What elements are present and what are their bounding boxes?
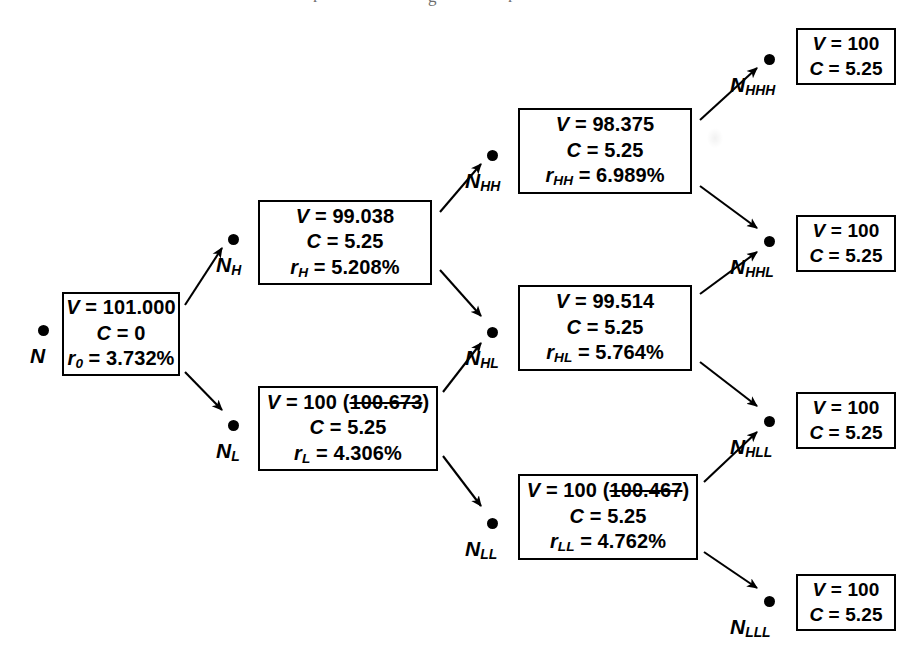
node-NHHL-line-1-v: V = 100 [813, 219, 880, 244]
node-label-N: N [30, 345, 45, 366]
tree-edge-NHL-to-NHLL [700, 362, 757, 406]
node-N-line-2-c: C = 0 [97, 321, 146, 347]
node-NHHH-line-2-c: C = 5.25 [809, 57, 882, 82]
node-NHHL-line-2-c: C = 5.25 [809, 244, 882, 269]
tree-edge-N-to-NL [185, 372, 222, 410]
node-dot-N [38, 325, 49, 336]
node-value-box-NH[interactable]: V = 99.038C = 5.25rH = 5.208% [258, 200, 432, 285]
node-NL-line-2-c: C = 5.25 [310, 415, 387, 441]
node-label-NHH: NHH [465, 170, 500, 194]
node-value-box-NLLL[interactable]: V = 100C = 5.25 [796, 574, 896, 631]
node-NH-line-1-v: V = 99.038 [296, 204, 394, 230]
node-label-NLLL: NLLL [730, 616, 771, 640]
node-NL-line-3-r: rL = 4.306% [294, 441, 402, 467]
node-N-line-1-v: V = 101.000 [66, 295, 176, 321]
node-label-NHHL: NHHL [730, 256, 774, 280]
node-NHHH-line-1-v: V = 100 [813, 32, 880, 57]
node-dot-NHH [487, 150, 498, 161]
node-NL-line-1-v: V = 100 (100.673) [267, 390, 429, 416]
tree-edge-NH-to-NHL [440, 270, 481, 316]
node-NHL-line-1-v: V = 99.514 [556, 289, 654, 315]
node-dot-NLL [487, 518, 498, 529]
node-dot-NL [228, 420, 239, 431]
node-value-box-NHHL[interactable]: V = 100C = 5.25 [796, 215, 896, 272]
tree-edge-NL-to-NLL [443, 456, 481, 506]
node-value-box-NHL[interactable]: V = 99.514C = 5.25rHL = 5.764% [518, 285, 692, 371]
node-label-NH: NH [216, 254, 241, 278]
node-dot-NH [228, 234, 239, 245]
node-NHH-line-2-c: C = 5.25 [567, 138, 644, 164]
node-label-NL: NL [216, 440, 240, 464]
node-NLL-line-1-v: V = 100 (100.467) [527, 478, 689, 504]
node-value-box-NL[interactable]: V = 100 (100.673)C = 5.25rL = 4.306% [258, 386, 438, 471]
node-dot-NHHL [764, 236, 775, 247]
node-NHLL-line-2-c: C = 5.25 [809, 421, 882, 446]
node-dot-NLLL [764, 596, 775, 607]
node-NLLL-line-2-c: C = 5.25 [809, 603, 882, 628]
node-value-box-N[interactable]: V = 101.000C = 0r0 = 3.732% [62, 292, 180, 376]
node-NHH-line-1-v: V = 98.375 [556, 112, 654, 138]
node-NLL-line-3-r: rLL = 4.762% [550, 529, 666, 555]
node-NHL-line-3-r: rHL = 5.764% [546, 340, 664, 366]
node-NH-line-2-c: C = 5.25 [307, 229, 384, 255]
node-value-box-NLL[interactable]: V = 100 (100.467)C = 5.25rLL = 4.762% [518, 474, 698, 560]
node-label-NLL: NLL [465, 538, 497, 562]
node-dot-NHL [487, 327, 498, 338]
node-NLL-line-2-c: C = 5.25 [570, 504, 647, 530]
node-value-box-NHH[interactable]: V = 98.375C = 5.25rHH = 6.989% [518, 108, 692, 194]
node-NHLL-line-1-v: V = 100 [813, 396, 880, 421]
tree-edge-NHH-to-NHHL [700, 186, 757, 228]
figure-canvas: r g r NV = 101.000C = 0r0 = 3.732%NHV = … [0, 0, 916, 672]
node-NHH-line-3-r: rHH = 6.989% [545, 163, 664, 189]
node-label-NHHH: NHHH [730, 74, 775, 98]
node-NLLL-line-1-v: V = 100 [813, 578, 880, 603]
node-label-NHLL: NHLL [730, 436, 772, 460]
node-N-line-3-r: r0 = 3.732% [67, 346, 174, 372]
node-NH-line-3-r: rH = 5.208% [290, 255, 399, 281]
node-value-box-NHLL[interactable]: V = 100C = 5.25 [796, 392, 896, 449]
node-NHL-line-2-c: C = 5.25 [567, 315, 644, 341]
tree-edge-NLL-to-NLLL [704, 552, 757, 588]
node-dot-NHLL [764, 416, 775, 427]
node-label-NHL: NHL [465, 347, 499, 371]
node-dot-NHHH [764, 54, 775, 65]
node-value-box-NHHH[interactable]: V = 100C = 5.25 [796, 28, 896, 85]
